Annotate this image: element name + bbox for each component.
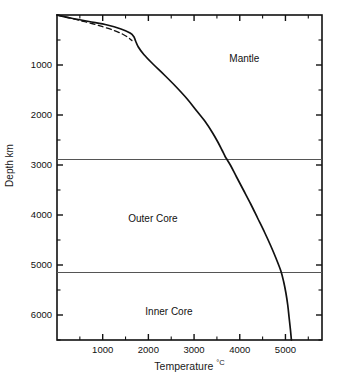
x-axis-title: Temperature °C (57, 358, 322, 372)
y-tick-label-2000: 2000 (14, 109, 52, 120)
region-label-inner-core: Inner Core (129, 306, 209, 317)
x-tick-label-2000: 2000 (124, 344, 172, 355)
geotherm-chart: Depth km Temperature °C 1000200030004000… (0, 0, 339, 382)
y-axis-minor-ticks (57, 40, 322, 340)
y-tick-label-4000: 4000 (14, 209, 52, 220)
y-tick-label-1000: 1000 (14, 59, 52, 70)
y-tick-label-6000: 6000 (14, 309, 52, 320)
x-tick-label-5000: 5000 (261, 344, 309, 355)
y-axis-title: Depth km (4, 136, 15, 196)
y-tick-label-5000: 5000 (14, 259, 52, 270)
region-label-mantle: Mantle (204, 53, 284, 64)
series-alternative-geotherm-dashed (57, 15, 132, 41)
x-axis-units: °C (216, 358, 224, 367)
x-axis-title-text: Temperature (154, 360, 213, 372)
chart-canvas (0, 0, 339, 382)
x-tick-label-3000: 3000 (170, 344, 218, 355)
region-label-outer-core: Outer Core (113, 213, 193, 224)
x-tick-label-1000: 1000 (79, 344, 127, 355)
x-tick-label-4000: 4000 (216, 344, 264, 355)
y-tick-label-3000: 3000 (14, 159, 52, 170)
